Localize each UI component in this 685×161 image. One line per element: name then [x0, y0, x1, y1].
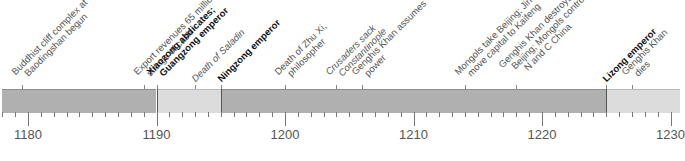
event-marker: [336, 85, 337, 89]
minor-tick: [568, 112, 569, 117]
event-label: Death of Zhu Xi,philosopher: [273, 21, 336, 84]
major-tick: [157, 112, 158, 126]
minor-tick: [581, 112, 582, 117]
year-label: 1220: [528, 127, 557, 142]
minor-tick: [452, 112, 453, 117]
event-marker: [632, 85, 633, 89]
minor-tick: [208, 112, 209, 117]
minor-tick: [54, 112, 55, 117]
major-tick: [285, 112, 286, 126]
minor-tick: [465, 112, 466, 117]
event-label-line: Baodingshan begun: [16, 5, 95, 84]
minor-tick: [632, 112, 633, 117]
timeline-segment-dark: [221, 89, 607, 113]
minor-tick: [606, 112, 607, 117]
year-label: 1190: [143, 127, 171, 142]
minor-tick: [221, 112, 222, 117]
event-marker: [606, 85, 607, 89]
minor-tick: [349, 112, 350, 117]
minor-tick: [272, 112, 273, 117]
era-divider: [221, 86, 222, 114]
minor-tick: [619, 112, 620, 117]
year-label: 1230: [656, 127, 685, 142]
minor-tick: [15, 112, 16, 117]
minor-tick: [246, 112, 247, 117]
event-label-line: Buddhist cliff complex at: [9, 0, 88, 77]
minor-tick: [131, 112, 132, 117]
minor-tick: [118, 112, 119, 117]
year-label: 1210: [399, 127, 428, 142]
minor-tick: [182, 112, 183, 117]
minor-tick: [401, 112, 402, 117]
event-marker: [285, 85, 286, 89]
timeline-segment-light: [157, 89, 221, 113]
major-tick: [28, 112, 29, 126]
era-divider: [606, 86, 607, 114]
minor-tick: [298, 112, 299, 117]
minor-tick: [388, 112, 389, 117]
minor-tick: [92, 112, 93, 117]
minor-tick: [67, 112, 68, 117]
minor-tick: [234, 112, 235, 117]
minor-tick: [324, 112, 325, 117]
era-divider: [157, 86, 158, 114]
major-tick: [671, 112, 672, 126]
major-tick: [542, 112, 543, 126]
event-label: Buddhist cliff complex atBaodingshan beg…: [9, 0, 95, 84]
event-marker: [144, 85, 145, 89]
minor-tick: [555, 112, 556, 117]
minor-tick: [645, 112, 646, 117]
minor-tick: [593, 112, 594, 117]
minor-tick: [516, 112, 517, 117]
minor-tick: [375, 112, 376, 117]
minor-tick: [491, 112, 492, 117]
event-marker: [465, 85, 466, 89]
minor-tick: [362, 112, 363, 117]
minor-tick: [195, 112, 196, 117]
event-marker: [22, 85, 23, 89]
minor-tick: [503, 112, 504, 117]
minor-tick: [41, 112, 42, 117]
minor-tick: [2, 112, 3, 117]
event-marker: [195, 85, 196, 89]
minor-tick: [439, 112, 440, 117]
minor-tick: [169, 112, 170, 117]
minor-tick: [144, 112, 145, 117]
minor-tick: [658, 112, 659, 117]
minor-tick: [426, 112, 427, 117]
timeline-segment-dark: [2, 89, 156, 113]
minor-tick: [529, 112, 530, 117]
year-label: 1200: [271, 127, 300, 142]
event-marker: [157, 85, 158, 89]
minor-tick: [259, 112, 260, 117]
event-marker: [362, 85, 363, 89]
event-marker: [516, 85, 517, 89]
minor-tick: [478, 112, 479, 117]
year-label: 1180: [14, 127, 42, 142]
timeline-segment-light: [606, 89, 680, 113]
minor-tick: [311, 112, 312, 117]
minor-tick: [79, 112, 80, 117]
minor-tick: [105, 112, 106, 117]
minor-tick: [336, 112, 337, 117]
major-tick: [414, 112, 415, 126]
event-marker: [221, 85, 222, 89]
